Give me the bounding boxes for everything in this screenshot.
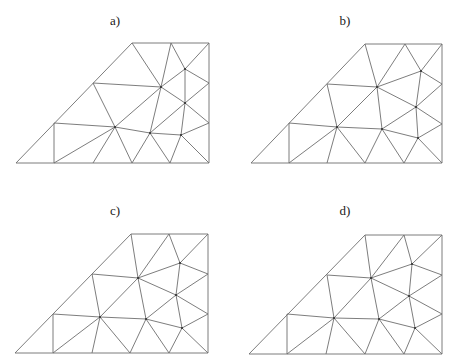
mesh-edge — [377, 87, 382, 129]
mesh-edge — [180, 263, 208, 274]
mesh-edge — [409, 296, 415, 328]
mesh-edge — [170, 135, 181, 163]
mesh-panel-a — [16, 43, 209, 163]
mesh-edge — [334, 318, 365, 354]
mesh-panel-c — [15, 234, 208, 353]
mesh-edge — [93, 83, 161, 87]
mesh-drawing — [0, 0, 456, 362]
mesh-edge — [150, 133, 170, 163]
mesh-node — [184, 102, 186, 104]
mesh-edge — [185, 43, 209, 69]
mesh-edge — [138, 278, 176, 295]
mesh-node — [180, 134, 182, 136]
mesh-node — [145, 318, 147, 320]
mesh-edge — [251, 44, 365, 163]
mesh-edge — [93, 127, 115, 163]
mesh-node — [179, 262, 181, 264]
mesh-edge — [131, 234, 138, 278]
mesh-edge — [365, 129, 382, 163]
mesh-edge — [150, 133, 181, 135]
mesh-node — [417, 137, 419, 139]
mesh-node — [175, 294, 177, 296]
panel-label-d: d) — [340, 204, 351, 217]
mesh-edge — [185, 103, 209, 123]
mesh-edge — [404, 328, 415, 354]
mesh-edge — [412, 264, 442, 275]
mesh-edge — [409, 264, 412, 296]
mesh-edge — [415, 314, 442, 328]
mesh-edge — [100, 317, 130, 353]
mesh-edge — [138, 234, 169, 278]
mesh-edge — [334, 278, 371, 318]
mesh-edge — [185, 69, 209, 83]
mesh-edge — [377, 71, 421, 87]
mesh-edge — [185, 83, 209, 103]
mesh-edge — [169, 234, 180, 263]
mesh-edge — [171, 43, 185, 69]
mesh-edge — [180, 234, 208, 263]
mesh-panel-d — [249, 235, 442, 354]
mesh-node — [336, 126, 338, 128]
mesh-edge — [130, 319, 146, 353]
mesh-edge — [404, 138, 418, 163]
mesh-node — [184, 68, 186, 70]
mesh-node — [378, 318, 380, 320]
mesh-edge — [100, 278, 138, 317]
mesh-edge — [327, 84, 377, 87]
mesh-edge — [418, 138, 442, 163]
mesh-node — [160, 86, 162, 88]
mesh-edge — [54, 127, 115, 163]
mesh-edge — [334, 318, 379, 319]
mesh-edge — [371, 264, 412, 278]
mesh-edge — [421, 44, 442, 71]
mesh-edge — [176, 274, 208, 295]
mesh-edge — [138, 263, 180, 278]
mesh-edge — [327, 127, 337, 163]
mesh-panel-b — [251, 44, 442, 163]
mesh-edge — [327, 275, 371, 278]
mesh-edge — [409, 275, 442, 296]
mesh-edge — [169, 328, 182, 353]
mesh-node — [149, 132, 151, 134]
mesh-edge — [53, 314, 100, 317]
mesh-edge — [289, 123, 337, 127]
mesh-edge — [421, 71, 442, 84]
mesh-edge — [416, 71, 421, 107]
mesh-edge — [15, 234, 131, 353]
mesh-edge — [415, 328, 442, 354]
mesh-edge — [412, 235, 442, 264]
mesh-edge — [416, 107, 418, 138]
mesh-node — [376, 86, 378, 88]
mesh-edge — [409, 296, 442, 314]
mesh-edge — [100, 317, 146, 319]
mesh-edge — [377, 44, 405, 87]
mesh-edge — [115, 127, 150, 133]
mesh-node — [415, 106, 417, 108]
mesh-edge — [115, 127, 132, 163]
mesh-node — [99, 316, 101, 318]
mesh-edge — [146, 295, 176, 319]
mesh-edge — [115, 87, 161, 127]
mesh-edge — [377, 87, 416, 107]
mesh-node — [381, 128, 383, 130]
mesh-edge — [181, 123, 209, 135]
mesh-edge — [150, 103, 185, 133]
mesh-edge — [132, 133, 150, 163]
mesh-node — [114, 126, 116, 128]
panel-label-b: b) — [340, 14, 351, 27]
mesh-edge — [418, 124, 442, 138]
mesh-edge — [54, 123, 115, 127]
mesh-edge — [176, 263, 180, 295]
mesh-edge — [382, 107, 416, 129]
mesh-edge — [337, 87, 377, 127]
mesh-node — [420, 70, 422, 72]
mesh-edge — [365, 319, 379, 354]
mesh-node — [414, 327, 416, 329]
mesh-edge — [150, 87, 161, 133]
mesh-edge — [379, 296, 409, 319]
mesh-edge — [176, 295, 208, 314]
mesh-edge — [249, 235, 365, 354]
panel-label-a: a) — [110, 14, 120, 27]
mesh-node — [370, 277, 372, 279]
mesh-edge — [371, 235, 404, 278]
